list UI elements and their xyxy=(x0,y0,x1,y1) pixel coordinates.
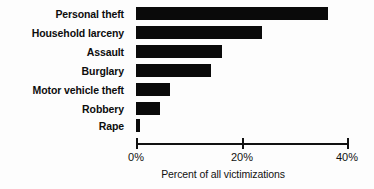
x-axis-tick-label-20: 20% xyxy=(219,150,265,164)
bar-burglary xyxy=(136,64,211,77)
bar-robbery xyxy=(136,102,160,115)
x-axis-tick-20 xyxy=(242,138,244,149)
bar-rape xyxy=(136,119,140,132)
category-label-household-larceny: Household larceny xyxy=(0,27,124,40)
category-label-personal-theft: Personal theft xyxy=(0,8,124,21)
category-axis-labels: Personal theft Household larceny Assault… xyxy=(0,0,130,136)
bar-personal-theft xyxy=(136,7,328,20)
category-label-burglary: Burglary xyxy=(0,65,124,78)
x-axis-tick-0 xyxy=(136,138,138,149)
x-axis-tick-40 xyxy=(347,138,349,149)
x-axis-title-text: Percent of all victimizations xyxy=(161,168,285,180)
bar-chart: Personal theft Household larceny Assault… xyxy=(0,0,374,189)
x-axis-tick-label-40: 40% xyxy=(324,150,370,164)
bar-assault xyxy=(136,45,222,58)
plot-area xyxy=(136,0,374,136)
category-label-assault: Assault xyxy=(0,46,124,59)
category-label-rape: Rape xyxy=(0,120,124,133)
x-axis-tick-label-0: 0% xyxy=(113,150,159,164)
category-label-motor-vehicle-theft: Motor vehicle theft xyxy=(0,84,124,97)
x-axis-title: Percent of all victimizations xyxy=(0,168,374,180)
bar-motor-vehicle-theft xyxy=(136,83,170,96)
category-label-robbery: Robbery xyxy=(0,103,124,116)
bar-household-larceny xyxy=(136,26,262,39)
